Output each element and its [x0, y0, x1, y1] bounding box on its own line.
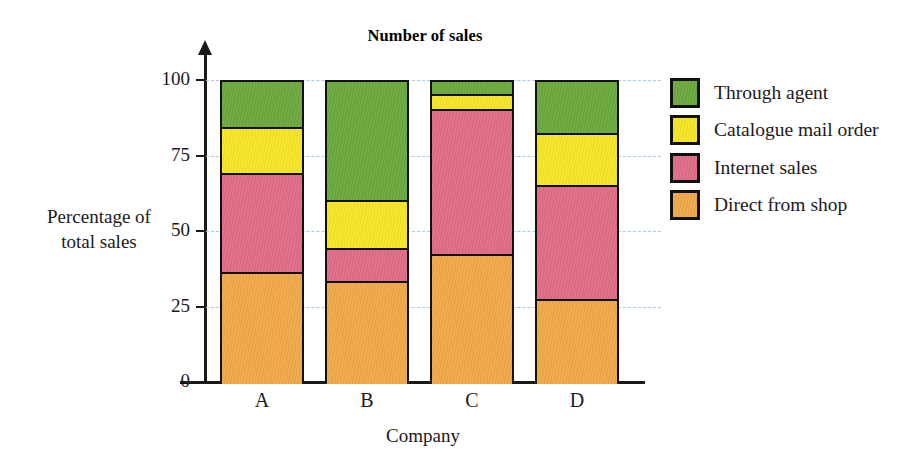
bar-segment-C-internet-sales[interactable] — [432, 109, 512, 254]
bar-segment-C-direct-from-shop[interactable] — [432, 254, 512, 384]
legend-swatch-icon — [670, 153, 700, 183]
x-axis-title: Company — [206, 425, 640, 447]
y-tick-label-75: 75 — [120, 144, 190, 166]
y-tick-mark-0 — [196, 381, 205, 383]
legend-label: Through agent — [714, 82, 828, 104]
legend-item-catalogue-mail-order[interactable]: Catalogue mail order — [670, 115, 879, 146]
x-tick-label-C: C — [430, 389, 514, 412]
y-axis-arrow-icon — [198, 40, 212, 55]
x-tick-label-B: B — [325, 389, 409, 412]
bar-segment-A-internet-sales[interactable] — [222, 173, 302, 273]
y-tick-label-0: 0 — [120, 370, 190, 392]
bar-segment-D-internet-sales[interactable] — [537, 185, 617, 300]
bar-segment-D-catalogue-mail-order[interactable] — [537, 133, 617, 184]
bar-segment-A-direct-from-shop[interactable] — [222, 272, 302, 384]
x-tick-label-D: D — [535, 389, 619, 412]
y-tick-label-25: 25 — [120, 295, 190, 317]
legend-item-through-agent[interactable]: Through agent — [670, 77, 879, 108]
bar-A[interactable] — [220, 80, 304, 382]
bar-segment-B-through-agent[interactable] — [327, 82, 407, 200]
bar-segment-D-through-agent[interactable] — [537, 82, 617, 133]
y-tick-mark-50 — [196, 230, 205, 232]
legend-label: Catalogue mail order — [714, 119, 879, 141]
legend-swatch-icon — [670, 190, 700, 220]
chart-legend: Through agentCatalogue mail orderInterne… — [670, 77, 879, 227]
bar-D[interactable] — [535, 80, 619, 382]
bar-segment-B-internet-sales[interactable] — [327, 248, 407, 281]
bar-segment-A-catalogue-mail-order[interactable] — [222, 127, 302, 172]
bar-segment-C-catalogue-mail-order[interactable] — [432, 94, 512, 109]
y-tick-mark-25 — [196, 306, 205, 308]
bar-segment-B-direct-from-shop[interactable] — [327, 281, 407, 384]
legend-item-direct-from-shop[interactable]: Direct from shop — [670, 190, 879, 221]
bar-segment-B-catalogue-mail-order[interactable] — [327, 200, 407, 248]
chart-title: Number of sales — [280, 26, 570, 46]
bar-B[interactable] — [325, 80, 409, 382]
bar-segment-C-through-agent[interactable] — [432, 82, 512, 94]
bar-C[interactable] — [430, 80, 514, 382]
bar-segment-A-through-agent[interactable] — [222, 82, 302, 127]
legend-item-internet-sales[interactable]: Internet sales — [670, 152, 879, 183]
y-tick-label-100: 100 — [120, 68, 190, 90]
x-tick-label-A: A — [220, 389, 304, 412]
plot-area — [206, 80, 640, 382]
bar-segment-D-direct-from-shop[interactable] — [537, 299, 617, 384]
y-tick-mark-100 — [196, 79, 205, 81]
legend-swatch-icon — [670, 115, 700, 145]
legend-label: Direct from shop — [714, 194, 847, 216]
y-tick-mark-75 — [196, 155, 205, 157]
y-tick-label-50: 50 — [120, 219, 190, 241]
legend-label: Internet sales — [714, 157, 817, 179]
legend-swatch-icon — [670, 78, 700, 108]
